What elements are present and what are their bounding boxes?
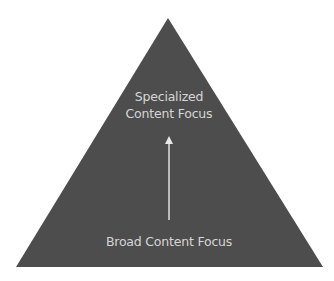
top-label-line1: Specialized: [84, 88, 254, 105]
pyramid-diagram: Specialized Content Focus Broad Content …: [0, 0, 334, 281]
broad-content-focus-label: Broad Content Focus: [84, 233, 254, 250]
top-label-line2: Content Focus: [84, 105, 254, 122]
specialized-content-focus-label: Specialized Content Focus: [84, 88, 254, 122]
